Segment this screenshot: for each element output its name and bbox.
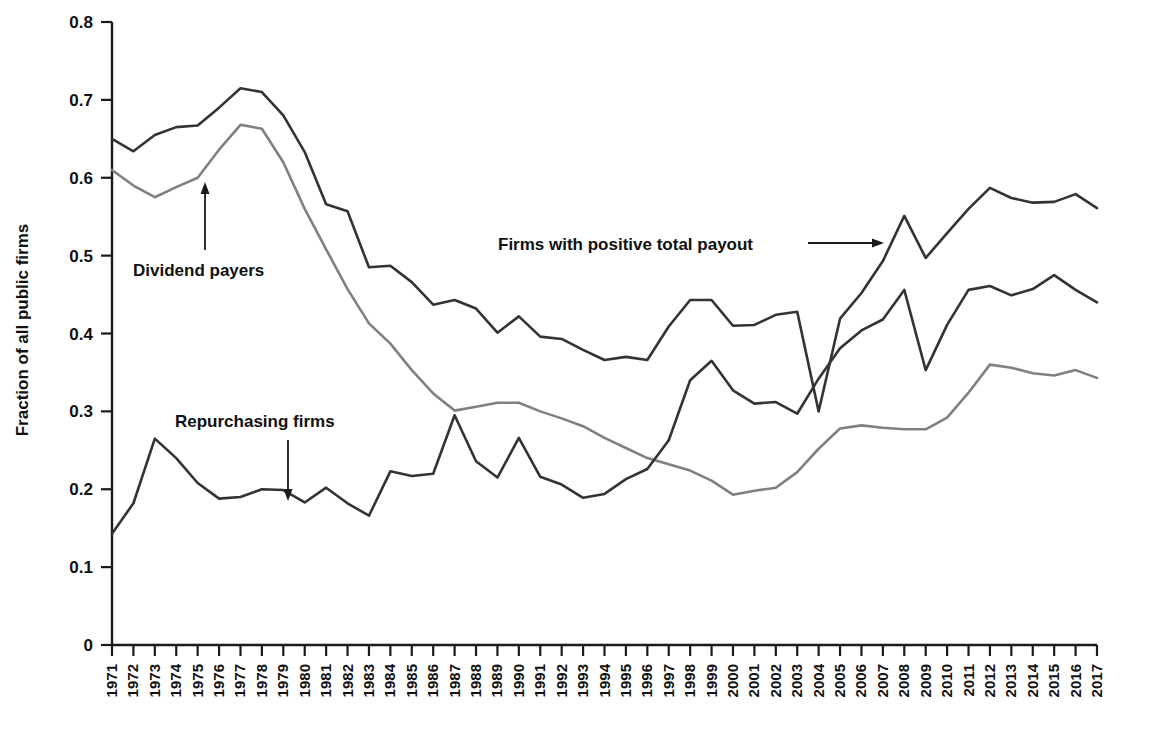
x-tick-label: 1988 bbox=[467, 664, 484, 697]
x-tick-label: 2006 bbox=[852, 664, 869, 697]
x-tick-label: 2014 bbox=[1024, 663, 1041, 697]
x-tick-label: 1987 bbox=[446, 664, 463, 697]
x-tick-label: 1978 bbox=[253, 664, 270, 697]
x-tick-label: 2001 bbox=[745, 664, 762, 697]
x-tick-label: 1975 bbox=[189, 664, 206, 697]
series-line-dividend-payers bbox=[112, 125, 1097, 495]
x-tick-label: 2000 bbox=[724, 664, 741, 697]
y-tick-label: 0.5 bbox=[69, 247, 93, 266]
line-chart-canvas: 00.10.20.30.40.50.60.70.8 19711972197319… bbox=[0, 0, 1149, 729]
x-tick-label: 2003 bbox=[788, 664, 805, 697]
annotation-positive-total-payout: Firms with positive total payout bbox=[498, 235, 884, 254]
x-tick-label: 2015 bbox=[1045, 664, 1062, 697]
y-tick-label: 0.2 bbox=[69, 480, 93, 499]
x-tick-label: 1997 bbox=[660, 664, 677, 697]
x-tick-label: 2016 bbox=[1067, 664, 1084, 697]
x-tick-label: 2002 bbox=[767, 664, 784, 697]
x-tick-label: 1976 bbox=[210, 664, 227, 697]
y-tick-label: 0.6 bbox=[69, 169, 93, 188]
x-tick-label: 1980 bbox=[296, 664, 313, 697]
x-tick-label: 2012 bbox=[981, 664, 998, 697]
positive-total-payout-label: Firms with positive total payout bbox=[498, 235, 753, 254]
y-axis-title: Fraction of all public firms bbox=[13, 224, 32, 437]
series-lines bbox=[112, 88, 1097, 533]
x-axis: 1971197219731974197519761977197819791980… bbox=[103, 645, 1105, 697]
y-tick-label: 0.1 bbox=[69, 558, 93, 577]
x-tick-label: 1981 bbox=[317, 664, 334, 697]
x-tick-label: 2017 bbox=[1088, 664, 1105, 697]
x-tick-label: 1972 bbox=[124, 664, 141, 697]
x-tick-label: 1973 bbox=[146, 664, 163, 697]
x-tick-label: 1971 bbox=[103, 664, 120, 697]
y-tick-label: 0.3 bbox=[69, 402, 93, 421]
series-line-repurchasing-firms bbox=[112, 275, 1097, 534]
chart-figure: 00.10.20.30.40.50.60.70.8 19711972197319… bbox=[0, 0, 1149, 729]
y-tick-label: 0.4 bbox=[69, 325, 93, 344]
y-tick-label: 0.7 bbox=[69, 91, 93, 110]
y-tick-label: 0 bbox=[84, 636, 93, 655]
y-tick-label: 0.8 bbox=[69, 13, 93, 32]
x-tick-label: 1977 bbox=[231, 664, 248, 697]
x-tick-label: 1979 bbox=[274, 664, 291, 697]
dividend-payers-arrow-head bbox=[201, 182, 210, 194]
x-tick-label: 1998 bbox=[681, 664, 698, 697]
x-tick-label: 1995 bbox=[617, 664, 634, 697]
x-tick-label: 1994 bbox=[596, 663, 613, 697]
positive-total-payout-arrow-head bbox=[872, 239, 884, 248]
x-tick-label: 1985 bbox=[403, 664, 420, 697]
y-axis: 00.10.20.30.40.50.60.70.8 bbox=[69, 13, 112, 655]
x-tick-label: 1989 bbox=[488, 664, 505, 697]
x-tick-label: 2013 bbox=[1002, 664, 1019, 697]
x-tick-label: 1999 bbox=[703, 664, 720, 697]
x-tick-label: 1984 bbox=[381, 663, 398, 697]
x-tick-label: 1991 bbox=[531, 664, 548, 697]
x-tick-label: 1982 bbox=[339, 664, 356, 697]
x-tick-label: 2005 bbox=[831, 664, 848, 697]
x-tick-label: 2011 bbox=[960, 664, 977, 697]
x-tick-label: 1993 bbox=[574, 664, 591, 697]
x-tick-label: 2004 bbox=[810, 663, 827, 697]
annotation-repurchasing-firms: Repurchasing firms bbox=[175, 412, 335, 501]
x-tick-label: 1990 bbox=[510, 664, 527, 697]
x-tick-label: 1983 bbox=[360, 664, 377, 697]
x-tick-label: 1992 bbox=[553, 664, 570, 697]
x-tick-label: 2007 bbox=[874, 664, 891, 697]
repurchasing-firms-label: Repurchasing firms bbox=[175, 412, 335, 431]
x-tick-label: 2009 bbox=[917, 664, 934, 697]
x-tick-label: 1986 bbox=[424, 664, 441, 697]
x-tick-label: 2008 bbox=[895, 664, 912, 697]
x-tick-label: 1996 bbox=[638, 664, 655, 697]
x-tick-label: 2010 bbox=[938, 664, 955, 697]
x-tick-label: 1974 bbox=[167, 663, 184, 697]
dividend-payers-label: Dividend payers bbox=[133, 261, 264, 280]
